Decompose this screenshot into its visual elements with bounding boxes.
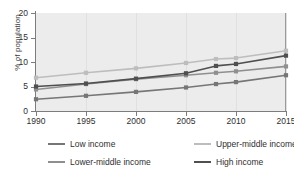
- series-marker: [34, 97, 38, 101]
- legend-item-low-income[interactable]: Low income: [48, 140, 115, 149]
- y-tick-label: 5: [8, 82, 28, 91]
- series-marker: [284, 64, 288, 68]
- series-marker: [84, 81, 88, 85]
- series-marker: [184, 61, 188, 65]
- x-tick-label: 1990: [19, 117, 53, 126]
- legend-swatch-high-income: [194, 161, 211, 163]
- y-tick-label: 15: [8, 33, 28, 42]
- series-marker: [234, 56, 238, 60]
- y-tick-mark: [31, 111, 35, 112]
- y-tick-label: 0: [8, 107, 28, 116]
- x-tick-label: 2000: [119, 117, 153, 126]
- x-axis-line: [35, 111, 287, 112]
- series-marker: [134, 90, 138, 94]
- series-marker: [34, 76, 38, 80]
- series-layer: [36, 13, 286, 111]
- x-tick-label: 1995: [69, 117, 103, 126]
- series-marker: [284, 49, 288, 53]
- legend-label-high-income: High income: [216, 158, 263, 167]
- legend-swatch-upper-middle-income: [194, 143, 211, 145]
- series-marker: [184, 71, 188, 75]
- series-marker: [134, 66, 138, 70]
- legend-label-upper-middle-income: Upper-middle income: [216, 140, 294, 149]
- series-line: [36, 75, 286, 99]
- series-line: [36, 56, 286, 87]
- gridline-vertical: [286, 13, 287, 111]
- series-marker: [284, 73, 288, 77]
- series-marker: [184, 85, 188, 89]
- y-tick-label: 10: [8, 58, 28, 67]
- legend-swatch-low-income: [48, 143, 65, 145]
- legend-item-high-income[interactable]: High income: [194, 158, 263, 167]
- series-marker: [234, 62, 238, 66]
- y-tick-mark: [31, 62, 35, 63]
- series-marker: [84, 71, 88, 75]
- plot-area: [36, 13, 286, 111]
- series-line: [36, 66, 286, 89]
- legend-item-lower-middle-income[interactable]: Lower-middle income: [48, 158, 151, 167]
- chart-legend: Low income Upper-middle income Lower-mid…: [36, 138, 292, 172]
- y-tick-mark: [31, 13, 35, 14]
- y-tick-label: 20: [8, 9, 28, 18]
- series-line: [36, 51, 286, 78]
- y-tick-mark: [31, 38, 35, 39]
- series-marker: [284, 54, 288, 58]
- chart-figure: % of population 05101520 199019952000200…: [0, 0, 294, 176]
- x-tick-label: 2010: [219, 117, 253, 126]
- series-marker: [84, 94, 88, 98]
- series-marker: [134, 77, 138, 81]
- series-marker: [34, 84, 38, 88]
- legend-label-low-income: Low income: [70, 140, 115, 149]
- series-marker: [214, 64, 218, 68]
- legend-label-lower-middle-income: Lower-middle income: [70, 158, 151, 167]
- legend-swatch-lower-middle-income: [48, 161, 65, 163]
- series-marker: [234, 80, 238, 84]
- x-tick-label: 2015: [269, 117, 294, 126]
- series-marker: [234, 69, 238, 73]
- series-marker: [214, 57, 218, 61]
- legend-item-upper-middle-income[interactable]: Upper-middle income: [194, 140, 294, 149]
- x-tick-label: 2005: [169, 117, 203, 126]
- series-marker: [214, 71, 218, 75]
- series-marker: [214, 82, 218, 86]
